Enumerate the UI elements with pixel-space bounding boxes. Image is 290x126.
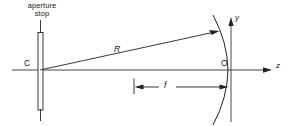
radius-arrowhead bbox=[209, 30, 219, 35]
z-axis-label: z bbox=[276, 62, 280, 70]
radius-label: R bbox=[114, 45, 120, 54]
optical-axis-group bbox=[12, 67, 272, 72]
focal-length-label: f bbox=[164, 81, 166, 90]
y-axis-group bbox=[228, 17, 233, 122]
radius-line-group bbox=[40, 30, 220, 70]
z-axis-arrowhead bbox=[263, 67, 272, 72]
focal-dimension-group bbox=[134, 79, 229, 95]
focal-left-arrowhead bbox=[135, 84, 144, 89]
aperture-stop-label-line2: stop bbox=[18, 10, 66, 18]
vertex-label: O bbox=[221, 59, 228, 68]
center-of-curvature-label: C bbox=[24, 59, 30, 68]
y-axis-label: y bbox=[235, 14, 239, 22]
radius-line bbox=[40, 32, 214, 70]
aperture-stop-group bbox=[38, 20, 43, 121]
aperture-stop-body bbox=[38, 33, 43, 111]
aperture-stop-label: aperture stop bbox=[18, 2, 66, 18]
optics-diagram-figure: aperture stop C R f O y z bbox=[0, 0, 290, 126]
y-axis-arrowhead bbox=[228, 17, 233, 26]
diagram-canvas bbox=[0, 0, 290, 126]
